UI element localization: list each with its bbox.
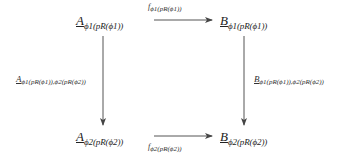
- node-subscript: ϕ1(pR(ϕ1)): [228, 21, 267, 31]
- node-symbol: A: [76, 13, 84, 28]
- edge-symbol: A: [16, 74, 22, 84]
- edge-label-top: fϕ1(pR(ϕ1)): [148, 3, 182, 11]
- edge-subscript: ϕ1(pR(ϕ1)): [150, 5, 181, 13]
- node-bottom-left: Aϕ2(pR(ϕ2)): [76, 130, 123, 143]
- node-symbol: B: [220, 129, 228, 144]
- node-symbol: A: [76, 129, 84, 144]
- edge-subscript: ϕ1(pR(ϕ1)),ϕ2(pR(ϕ2)): [22, 78, 86, 86]
- edge-label-bottom: fϕ2(pR(ϕ2)): [148, 143, 182, 151]
- node-top-left: Aϕ1(pR(ϕ1)): [76, 14, 123, 27]
- edge-label-right: Bϕ1(pR(ϕ1)),ϕ2(pR(ϕ2)): [254, 75, 324, 84]
- node-symbol: B: [220, 13, 228, 28]
- edge-subscript: ϕ2(pR(ϕ2)): [150, 145, 181, 153]
- node-subscript: ϕ1(pR(ϕ1)): [84, 21, 123, 31]
- node-subscript: ϕ2(pR(ϕ2)): [228, 137, 267, 147]
- node-subscript: ϕ2(pR(ϕ2)): [84, 137, 123, 147]
- edge-subscript: ϕ1(pR(ϕ1)),ϕ2(pR(ϕ2)): [260, 78, 324, 86]
- node-top-right: Bϕ1(pR(ϕ1)): [220, 14, 267, 27]
- edge-label-left: Aϕ1(pR(ϕ1)),ϕ2(pR(ϕ2)): [16, 75, 86, 84]
- node-bottom-right: Bϕ2(pR(ϕ2)): [220, 130, 267, 143]
- edge-symbol: B: [254, 74, 260, 84]
